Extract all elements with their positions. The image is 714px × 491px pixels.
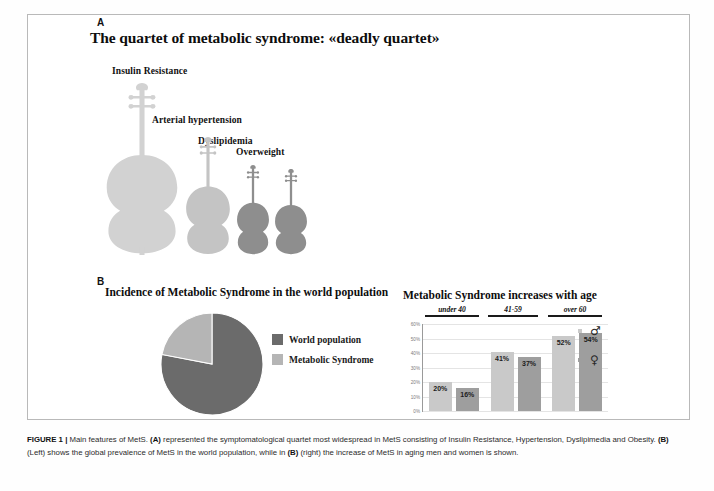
caption-bold-b2: (B) <box>287 448 298 457</box>
bar-chart-title: Metabolic Syndrome increases with age <box>403 289 597 301</box>
age-group-label-41-59: 41-59 <box>488 305 538 314</box>
age-group-rule <box>425 315 479 317</box>
pie-slice <box>162 313 212 364</box>
bar-male-41-59: 41% <box>491 352 514 411</box>
y-axis-tick-label: 60% <box>411 322 420 327</box>
bar-value-label: 20% <box>433 385 447 392</box>
caption-figure-label: FIGURE 1 <box>27 435 63 444</box>
age-group-label-under-40: under 40 <box>425 305 479 314</box>
y-axis-tick-label: 40% <box>411 351 420 356</box>
bar-female-under-40: 16% <box>456 388 479 411</box>
bar-value-label: 16% <box>460 391 474 398</box>
bar-male-over-60: 52% <box>552 336 575 411</box>
viola-icon <box>234 165 272 255</box>
pie-chart-title: Incidence of Metabolic Syndrome in the w… <box>105 286 388 298</box>
figure-caption: FIGURE 1 | Main features of MetS. (A) re… <box>27 434 687 459</box>
bar-value-label: 52% <box>557 339 571 346</box>
y-axis-tick-label: 30% <box>411 365 420 370</box>
legend-item-metabolic-syndrome: Metabolic Syndrome <box>272 354 402 365</box>
age-group-header-under-40: under 40 <box>425 305 479 317</box>
bar-value-label: 37% <box>522 360 536 367</box>
age-group-header-41-59: 41-59 <box>488 305 538 317</box>
legend-swatch-metabolic-syndrome <box>272 354 283 365</box>
y-axis-tick-label: 10% <box>411 394 420 399</box>
panel-a-title: The quartet of metabolic syndrome: «dead… <box>90 29 550 47</box>
legend-item-world-population: World population <box>272 334 402 345</box>
bar-male-under-40: 20% <box>429 382 452 411</box>
y-axis-tick-label: 0% <box>413 409 420 414</box>
pie-chart <box>160 312 264 416</box>
violin-icon <box>272 169 310 255</box>
caption-part-3: (Left) shows the global prevalence of Me… <box>27 448 287 457</box>
figure-root: A The quartet of metabolic syndrome: «de… <box>0 0 714 491</box>
instrument-quartet-illustration <box>100 80 310 255</box>
age-group-rule <box>488 315 538 317</box>
age-group-label-over-60: over 60 <box>548 305 602 314</box>
legend-item-male: ♂ <box>578 325 601 337</box>
panel-b-letter: B <box>97 276 104 287</box>
pie-chart-svg <box>160 312 264 416</box>
gridline: 0% <box>423 411 608 412</box>
legend-swatch-female <box>578 358 582 362</box>
y-axis-tick-label: 50% <box>411 336 420 341</box>
caption-bold-b1: (B) <box>658 435 669 444</box>
pie-chart-legend: World population Metabolic Syndrome <box>272 334 402 374</box>
bar-chart: under 40 41-59 over 60 0%10%20%30%40%50%… <box>398 305 638 423</box>
caption-part-2: represented the symptomatological quarte… <box>161 435 658 444</box>
caption-part-4: (right) the increase of MetS in aging me… <box>298 448 518 457</box>
legend-label-world-population: World population <box>289 335 361 345</box>
cello-icon <box>182 137 234 255</box>
age-group-header-over-60: over 60 <box>548 305 602 317</box>
instrument-label-insulin-resistance: Insulin Resistance <box>112 66 187 76</box>
bar-value-label: 41% <box>495 355 509 362</box>
y-axis-tick-label: 20% <box>411 380 420 385</box>
legend-item-female: ♀ <box>578 354 601 366</box>
female-symbol-icon: ♀ <box>590 354 599 366</box>
bar-female-41-59: 37% <box>518 357 541 411</box>
male-symbol-icon: ♂ <box>590 325 601 337</box>
legend-swatch-world-population <box>272 334 283 345</box>
legend-label-metabolic-syndrome: Metabolic Syndrome <box>289 355 374 365</box>
gender-legend: ♂ ♀ <box>578 325 601 383</box>
caption-bold-a: (A) <box>150 435 161 444</box>
caption-part-1: Main features of MetS. <box>67 435 150 444</box>
legend-swatch-male <box>578 329 582 333</box>
double-bass-icon <box>100 83 184 255</box>
age-group-rule <box>548 315 602 317</box>
panel-a-letter: A <box>97 17 104 28</box>
